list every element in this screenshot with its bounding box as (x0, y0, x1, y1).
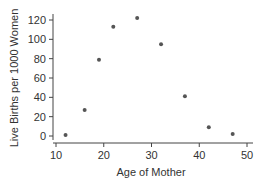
y-tick-label: 120 (28, 14, 46, 26)
data-point (97, 58, 101, 62)
scatter-chart: 020406080100120 1020304050 Age of Mother… (0, 0, 267, 185)
y-tick-label: 80 (34, 53, 46, 65)
data-point (64, 133, 68, 137)
y-tick-label: 20 (34, 111, 46, 123)
data-point (83, 108, 87, 112)
y-tick-label: 100 (28, 33, 46, 45)
x-tick-label: 50 (241, 149, 253, 161)
data-point (207, 125, 211, 129)
y-tick-label: 60 (34, 72, 46, 84)
x-tick-label: 30 (145, 149, 157, 161)
data-points (64, 16, 235, 137)
x-tick-label: 20 (98, 149, 110, 161)
data-point (111, 25, 115, 29)
y-axis-label: Live Births per 1000 Women (8, 9, 20, 148)
x-tick-label: 40 (193, 149, 205, 161)
y-axis: 020406080100120 (28, 14, 53, 142)
x-axis: 1020304050 (50, 143, 253, 161)
data-point (159, 42, 163, 46)
y-tick-label: 0 (40, 130, 46, 142)
data-point (135, 16, 139, 20)
data-point (183, 94, 187, 98)
data-point (231, 132, 235, 136)
x-tick-label: 10 (50, 149, 62, 161)
x-axis-label: Age of Mother (116, 166, 185, 178)
y-tick-label: 40 (34, 91, 46, 103)
